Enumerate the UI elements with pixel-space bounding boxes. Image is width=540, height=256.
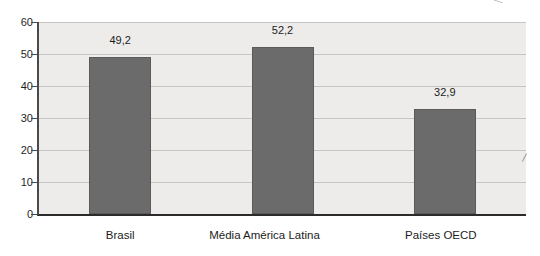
y-tick-mark xyxy=(31,54,37,55)
y-tick-label: 40 xyxy=(0,80,33,93)
y-tick-label: 10 xyxy=(0,176,33,189)
scan-artifact-speck xyxy=(494,0,503,3)
y-axis: 0102030405060 xyxy=(0,22,33,214)
y-tick-mark xyxy=(31,214,37,215)
y-tick-label: 60 xyxy=(0,16,33,29)
bar-value-label: 32,9 xyxy=(405,86,485,99)
y-tick-label: 0 xyxy=(0,208,33,221)
y-tick-mark xyxy=(31,182,37,183)
category-label: Brasil xyxy=(40,228,200,242)
bar-value-label: 49,2 xyxy=(80,34,160,47)
y-tick-label: 20 xyxy=(0,144,33,157)
bar-value-label: 52,2 xyxy=(243,24,323,37)
y-tick-mark xyxy=(31,22,37,23)
bar xyxy=(89,57,151,214)
y-tick-label: 30 xyxy=(0,112,33,125)
bar-chart: 0102030405060 49,252,232,9 BrasilMédia A… xyxy=(0,0,540,256)
y-tick-mark xyxy=(31,86,37,87)
y-tick-mark xyxy=(31,150,37,151)
category-label: Países OECD xyxy=(361,228,521,242)
y-tick-mark xyxy=(31,118,37,119)
bar xyxy=(252,47,314,214)
gridline xyxy=(39,22,526,23)
bar xyxy=(414,109,476,214)
y-tick-label: 50 xyxy=(0,48,33,61)
category-label: Média América Latina xyxy=(185,228,345,242)
x-axis-labels: BrasilMédia América LatinaPaíses OECD xyxy=(39,228,526,244)
plot-area: 49,252,232,9 xyxy=(37,22,526,216)
